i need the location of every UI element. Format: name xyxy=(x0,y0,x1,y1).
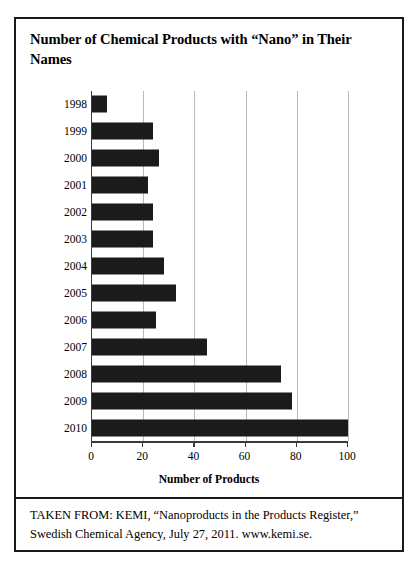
y-axis-tick-label: 2010 xyxy=(64,422,87,434)
x-axis-tick-label: 60 xyxy=(239,450,251,462)
y-axis-tick-label: 2003 xyxy=(64,233,87,245)
bar xyxy=(92,96,107,113)
bar xyxy=(92,419,348,436)
x-axis-line xyxy=(91,441,347,443)
y-axis-tick-label: 2006 xyxy=(64,314,87,326)
gridline xyxy=(246,91,247,441)
y-axis-tick-label: 2004 xyxy=(64,260,87,272)
y-axis-tick-label: 1999 xyxy=(64,125,87,137)
y-axis-tick-label: 2000 xyxy=(64,152,87,164)
gridline xyxy=(297,91,298,441)
x-axis-tick-mark xyxy=(91,441,92,447)
x-axis-tick-label: 0 xyxy=(88,450,94,462)
y-axis-tick-label: 2007 xyxy=(64,341,87,353)
bar xyxy=(92,231,153,248)
x-axis-tick-label: 80 xyxy=(290,450,302,462)
bar xyxy=(92,311,156,328)
plot-container: 1998199920002001200220032004200520062007… xyxy=(16,91,402,486)
x-axis-title: Number of Products xyxy=(16,473,402,486)
bar xyxy=(92,204,153,221)
x-axis-tick-mark xyxy=(245,441,246,447)
bar xyxy=(92,284,176,301)
bar xyxy=(92,365,281,382)
bar xyxy=(92,123,153,140)
y-axis-tick-labels: 1998199920002001200220032004200520062007… xyxy=(16,91,91,441)
y-axis-tick-label: 2002 xyxy=(64,206,87,218)
figure-frame: Number of Chemical Products with “Nano” … xyxy=(14,17,404,552)
chart-title: Number of Chemical Products with “Nano” … xyxy=(30,29,382,69)
x-axis-tick-mark xyxy=(296,441,297,447)
y-axis-tick-label: 2001 xyxy=(64,179,87,191)
x-axis-tick-label: 100 xyxy=(338,450,355,462)
x-axis-tick-mark xyxy=(347,441,348,447)
y-axis-tick-label: 2008 xyxy=(64,368,87,380)
y-axis-tick-label: 2009 xyxy=(64,395,87,407)
bar xyxy=(92,392,292,409)
x-axis-tick-mark xyxy=(193,441,194,447)
bar xyxy=(92,338,207,355)
x-axis-tick-mark xyxy=(142,441,143,447)
x-axis-tick-label: 40 xyxy=(188,450,200,462)
y-axis-tick-label: 2005 xyxy=(64,287,87,299)
plot-area xyxy=(91,91,348,441)
source-caption: TAKEN FROM: KEMI, “Nanoproducts in the P… xyxy=(30,506,390,543)
y-axis-tick-label: 1998 xyxy=(64,98,87,110)
bar xyxy=(92,177,148,194)
caption-divider xyxy=(16,497,402,499)
gridline xyxy=(348,91,349,441)
bar xyxy=(92,150,159,167)
bar xyxy=(92,258,164,275)
gridline xyxy=(194,91,195,441)
x-axis-tick-label: 20 xyxy=(136,450,148,462)
